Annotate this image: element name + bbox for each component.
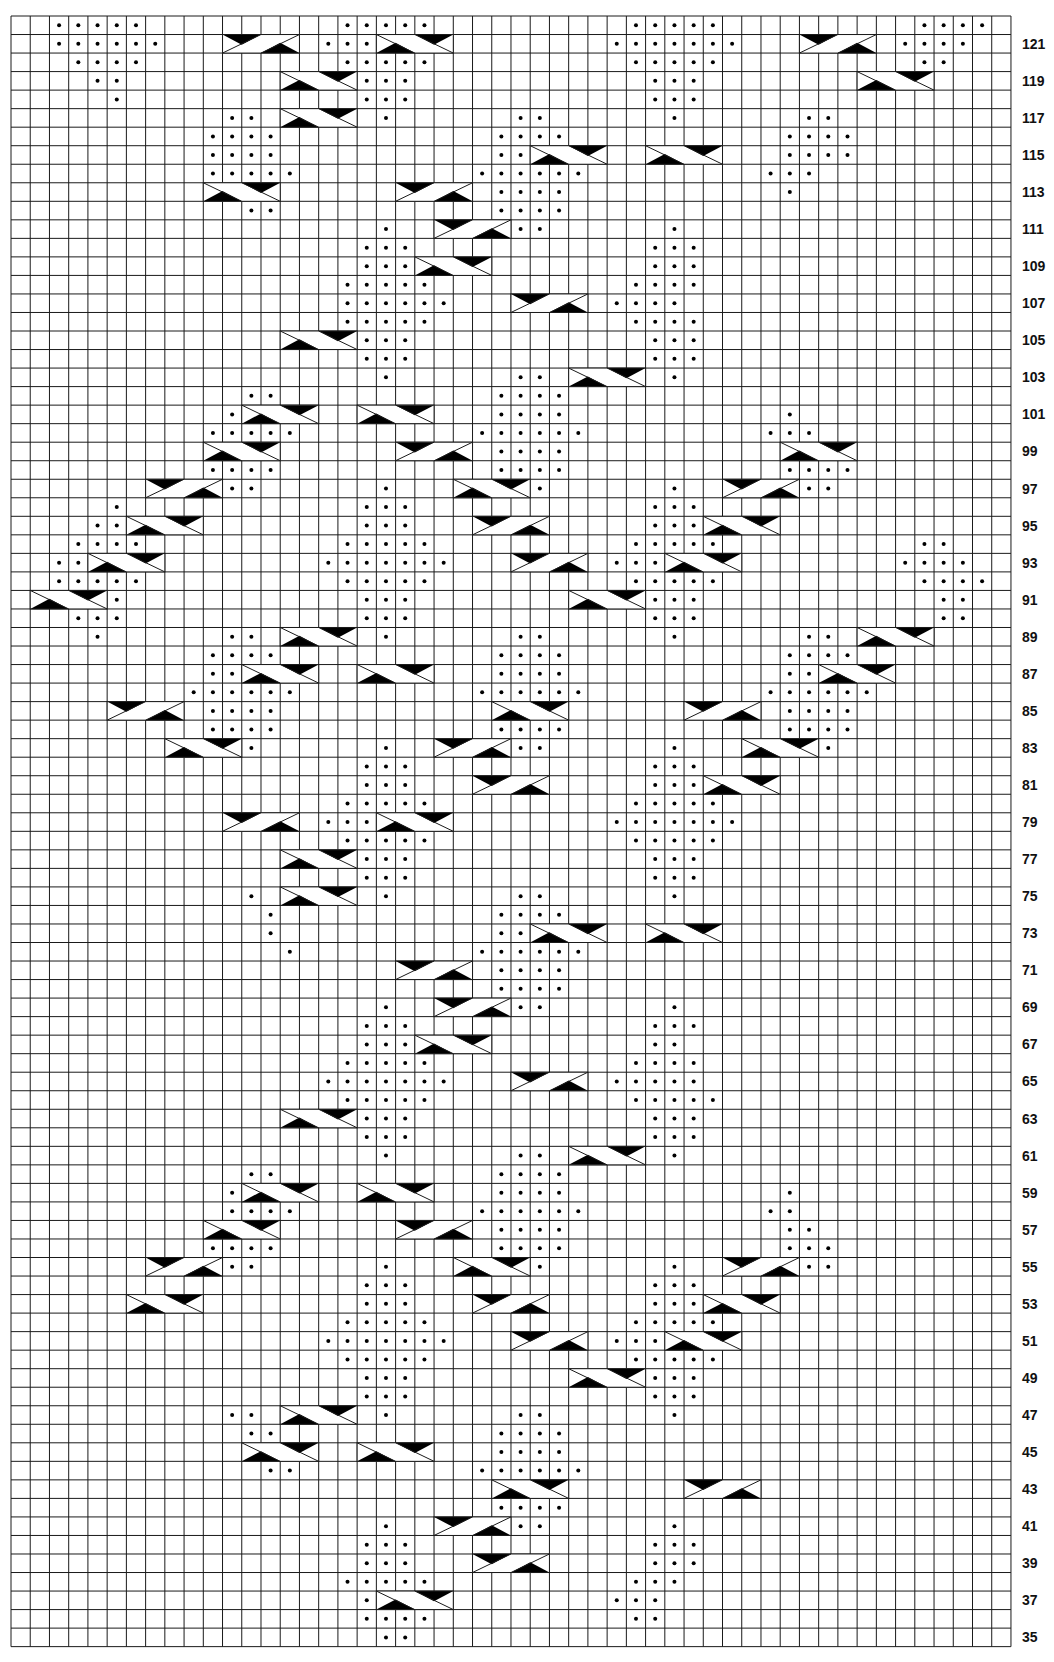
purl-dot <box>692 23 696 27</box>
purl-dot <box>365 283 369 287</box>
purl-dot <box>769 172 773 176</box>
purl-dot <box>403 579 407 583</box>
purl-dot <box>422 283 426 287</box>
purl-dot <box>403 338 407 342</box>
purl-dot <box>519 1450 523 1454</box>
purl-dot <box>403 1283 407 1287</box>
purl-dot <box>96 79 100 83</box>
purl-dot <box>346 1580 350 1584</box>
purl-dot <box>249 709 253 713</box>
purl-dot <box>115 97 119 101</box>
purl-dot <box>653 839 657 843</box>
purl-dot <box>826 709 830 713</box>
purl-dot <box>730 42 734 46</box>
purl-dot <box>499 172 503 176</box>
purl-dot <box>672 1265 676 1269</box>
purl-dot <box>519 894 523 898</box>
purl-dot <box>134 23 138 27</box>
purl-dot <box>672 542 676 546</box>
purl-dot <box>422 579 426 583</box>
row-label: 77 <box>1022 850 1052 868</box>
purl-dot <box>826 635 830 639</box>
purl-dot <box>403 802 407 806</box>
purl-dot <box>230 134 234 138</box>
purl-dot <box>672 1376 676 1380</box>
purl-dot <box>326 820 330 824</box>
row-label: 51 <box>1022 1332 1052 1350</box>
purl-dot <box>269 727 273 731</box>
purl-dot <box>672 301 676 305</box>
purl-dot <box>269 394 273 398</box>
purl-dot <box>557 412 561 416</box>
purl-dot <box>634 60 638 64</box>
purl-dot <box>269 172 273 176</box>
purl-dot <box>403 783 407 787</box>
purl-dot <box>672 246 676 250</box>
purl-dot <box>499 1506 503 1510</box>
purl-dot <box>788 431 792 435</box>
purl-dot <box>384 1154 388 1158</box>
purl-dot <box>403 1079 407 1083</box>
purl-dot <box>576 950 580 954</box>
purl-dot <box>249 116 253 120</box>
purl-dot <box>519 1154 523 1158</box>
purl-dot <box>672 894 676 898</box>
purl-dot <box>211 727 215 731</box>
purl-dot <box>249 727 253 731</box>
purl-dot <box>326 1079 330 1083</box>
purl-dot <box>538 653 542 657</box>
purl-dot <box>653 1098 657 1102</box>
purl-dot <box>653 1320 657 1324</box>
purl-dot <box>653 1376 657 1380</box>
purl-dot <box>846 709 850 713</box>
purl-dot <box>403 542 407 546</box>
row-label: 113 <box>1022 183 1052 201</box>
purl-dot <box>499 1246 503 1250</box>
purl-dot <box>538 894 542 898</box>
purl-dot <box>653 1061 657 1065</box>
purl-dot <box>846 727 850 731</box>
purl-dot <box>672 487 676 491</box>
purl-dot <box>653 357 657 361</box>
purl-dot <box>211 690 215 694</box>
purl-dot <box>346 301 350 305</box>
purl-dot <box>115 616 119 620</box>
purl-dot <box>403 60 407 64</box>
purl-dot <box>365 1376 369 1380</box>
purl-dot <box>519 1469 523 1473</box>
purl-dot <box>672 783 676 787</box>
purl-dot <box>519 987 523 991</box>
purl-dot <box>711 579 715 583</box>
purl-dot <box>557 1209 561 1213</box>
row-label: 81 <box>1022 776 1052 794</box>
purl-dot <box>422 23 426 27</box>
purl-dot <box>249 394 253 398</box>
purl-dot <box>538 746 542 750</box>
purl-dot <box>346 579 350 583</box>
purl-dot <box>365 524 369 528</box>
purl-dot <box>499 931 503 935</box>
purl-dot <box>96 42 100 46</box>
purl-dot <box>499 431 503 435</box>
purl-dot <box>711 820 715 824</box>
purl-dot <box>499 1228 503 1232</box>
purl-dot <box>365 857 369 861</box>
purl-dot <box>249 468 253 472</box>
purl-dot <box>499 968 503 972</box>
purl-dot <box>384 79 388 83</box>
purl-dot <box>422 301 426 305</box>
purl-dot <box>711 1098 715 1102</box>
purl-dot <box>365 579 369 583</box>
purl-dot <box>384 764 388 768</box>
row-label: 61 <box>1022 1147 1052 1165</box>
purl-dot <box>499 1209 503 1213</box>
purl-dot <box>480 1469 484 1473</box>
purl-dot <box>519 690 523 694</box>
purl-dot <box>384 338 388 342</box>
purl-dot <box>788 153 792 157</box>
purl-dot <box>365 802 369 806</box>
purl-dot <box>365 23 369 27</box>
purl-dot <box>557 690 561 694</box>
purl-dot <box>365 1617 369 1621</box>
purl-dot <box>365 1079 369 1083</box>
